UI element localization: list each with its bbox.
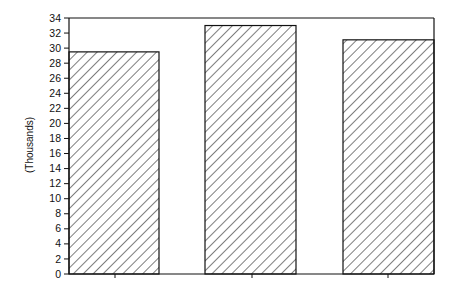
bar-1 — [69, 52, 159, 274]
y-tick-label: 16 — [49, 147, 61, 159]
y-tick-label: 4 — [55, 237, 61, 249]
y-tick-label: 24 — [49, 87, 61, 99]
bars — [69, 26, 434, 274]
y-tick-label: 10 — [49, 192, 61, 204]
y-tick-label: 22 — [49, 102, 61, 114]
y-tick-label: 6 — [55, 222, 61, 234]
y-tick-label: 18 — [49, 132, 61, 144]
y-tick-label: 14 — [49, 162, 61, 174]
y-tick-label: 34 — [49, 12, 61, 24]
y-tick-label: 26 — [49, 72, 61, 84]
y-tick-label: 32 — [49, 27, 61, 39]
y-axis-title: (Thousands) — [24, 117, 35, 173]
bar-chart: 0246810121416182022242628303234 (Thousan… — [0, 0, 456, 297]
bar-3 — [343, 40, 434, 274]
x-axis — [69, 274, 434, 278]
y-tick-label: 20 — [49, 117, 61, 129]
y-tick-label: 28 — [49, 57, 61, 69]
y-tick-label: 30 — [49, 42, 61, 54]
y-tick-label: 2 — [55, 253, 61, 265]
bar-2 — [205, 26, 296, 274]
y-tick-label: 0 — [55, 268, 61, 280]
y-tick-label: 8 — [55, 207, 61, 219]
y-tick-label: 12 — [49, 177, 61, 189]
y-axis: 0246810121416182022242628303234 — [49, 12, 69, 280]
